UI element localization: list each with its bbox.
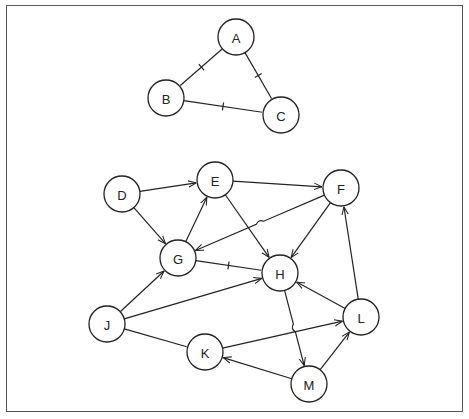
node-label: K — [201, 346, 210, 361]
node-d: D — [104, 176, 140, 212]
node-g: G — [160, 240, 196, 276]
node-label: H — [275, 267, 284, 282]
node-label: J — [104, 318, 111, 333]
node-label: A — [232, 31, 241, 46]
node-l: L — [343, 299, 379, 335]
edge-f-h — [291, 203, 330, 258]
edge-f-g — [195, 195, 324, 250]
node-f: F — [323, 170, 359, 206]
node-label: D — [117, 188, 126, 203]
node-h: H — [262, 255, 298, 291]
node-b: B — [148, 80, 184, 116]
node-k: K — [187, 334, 223, 370]
edge-h-m — [285, 290, 305, 365]
node-a: A — [218, 19, 254, 55]
edge-m-l — [320, 332, 349, 370]
node-label: F — [337, 182, 345, 197]
node-label: G — [173, 252, 183, 267]
edge-tick-mark — [255, 74, 262, 78]
edge-tick-mark — [228, 261, 229, 269]
node-label: L — [357, 311, 364, 326]
node-e: E — [197, 162, 233, 198]
node-label: E — [211, 174, 220, 189]
edge-l-f — [344, 207, 358, 299]
edge-j-k — [124, 329, 186, 347]
edge-d-g — [134, 208, 166, 244]
edge-g-e — [186, 197, 207, 242]
node-j: J — [89, 306, 125, 342]
edge-tick-mark — [222, 102, 223, 110]
edge-j-h — [124, 278, 262, 319]
edge-e-h — [225, 195, 269, 258]
edge-l-h — [297, 282, 345, 308]
edge-j-g — [120, 271, 164, 312]
node-label: M — [304, 378, 315, 393]
edge-e-f — [233, 181, 322, 187]
nodes-layer: ABCDEFGHJKLM — [89, 19, 379, 402]
node-label: B — [162, 92, 171, 107]
node-m: M — [291, 366, 327, 402]
edge-d-e — [140, 183, 196, 191]
node-label: C — [276, 109, 285, 124]
node-c: C — [263, 97, 299, 133]
edge-k-l — [223, 321, 343, 348]
graph-canvas: ABCDEFGHJKLM — [0, 0, 469, 419]
edge-m-k — [223, 358, 292, 379]
